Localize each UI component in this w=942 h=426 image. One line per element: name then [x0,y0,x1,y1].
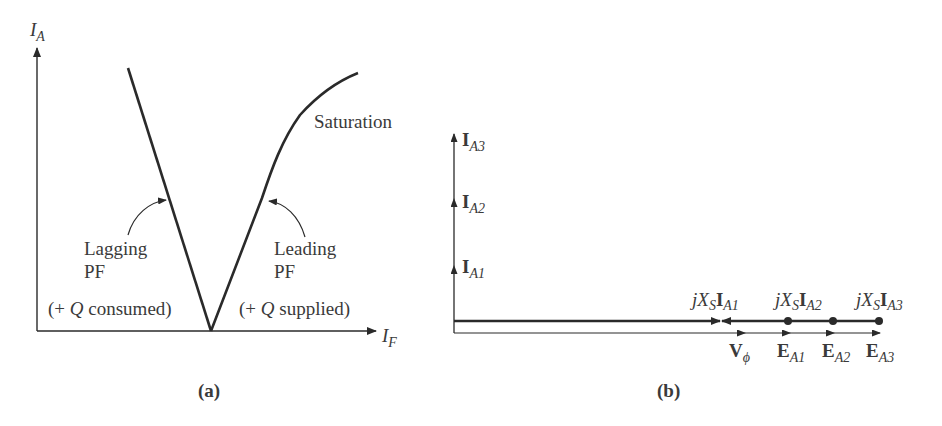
q-supplied-label: (+ Q supplied) [239,298,350,320]
figure-a: IA IF Saturation Lagging PF (+ Q consume… [29,19,397,402]
jxs-ia1-label: jXSIA1 [689,289,739,313]
caption-b: (b) [657,380,680,402]
lagging-branch [128,68,211,331]
ea3-label: EA3 [866,340,894,365]
ia3-label: IA3 [462,129,485,154]
saturation-label: Saturation [314,111,393,132]
ea2-dot [829,317,837,325]
lagging-label: Lagging [84,238,148,259]
leading-pointer-arrow [269,201,305,237]
lagging-pointer-arrow [128,200,166,235]
ea2-label: EA2 [822,340,850,365]
leading-pf-label: PF [274,261,295,282]
figure-b: IA3 IA2 IA1 jXSIA1 jXSIA2 jXSIA3 Vϕ EA1 … [454,129,903,402]
ea1-label: EA1 [777,340,805,365]
leading-label: Leading [274,238,337,259]
jxs-ia3-label: jXSIA3 [853,289,903,313]
q-consumed-label: (+ Q consumed) [48,298,172,320]
ea1-dot [784,317,792,325]
ia1-label: IA1 [462,256,485,281]
x-axis-label: IF [381,325,397,350]
y-axis-label: IA [29,19,45,44]
v-phi-label: Vϕ [729,340,750,365]
jxs-ia2-label: jXSIA2 [772,289,822,313]
lagging-pf-label: PF [84,261,105,282]
ea3-dot [875,317,883,325]
caption-a: (a) [198,380,220,402]
ia2-label: IA2 [462,191,485,216]
v-curve-and-phasor-figure: IA IF Saturation Lagging PF (+ Q consume… [0,0,942,426]
